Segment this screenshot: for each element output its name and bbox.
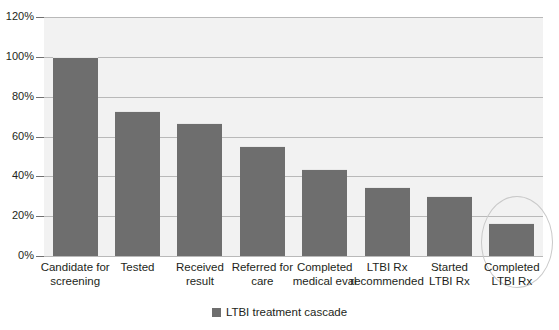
- y-axis-tick-label: 20%: [12, 210, 34, 221]
- bar[interactable]: [177, 123, 222, 256]
- y-axis-tick-label: 80%: [12, 91, 34, 102]
- bar-slot: [44, 17, 106, 256]
- y-axis-tick-label: 0%: [18, 250, 34, 261]
- chart-legend: LTBI treatment cascade: [0, 306, 559, 318]
- bar[interactable]: [240, 146, 285, 256]
- bar[interactable]: [302, 169, 347, 256]
- bar-slot: [106, 17, 168, 256]
- bar[interactable]: [365, 187, 410, 256]
- bar[interactable]: [53, 57, 98, 256]
- bar[interactable]: [115, 111, 160, 256]
- bar-slot: [481, 17, 543, 256]
- bar-slot: [231, 17, 293, 256]
- y-axis-tick-label: 40%: [12, 170, 34, 181]
- x-axis-label-line: screening: [38, 274, 112, 288]
- y-axis-tick: [36, 176, 44, 177]
- bar[interactable]: [489, 223, 534, 256]
- y-axis-tick: [36, 17, 44, 18]
- y-axis-tick-label: 120%: [6, 11, 34, 22]
- y-axis-tick-label: 60%: [12, 131, 34, 142]
- y-axis-tick: [36, 216, 44, 217]
- y-axis-tick: [36, 137, 44, 138]
- bar-slot: [169, 17, 231, 256]
- bar-slot: [294, 17, 356, 256]
- bar-slot: [356, 17, 418, 256]
- y-axis-tick: [36, 57, 44, 58]
- x-axis-label-line: LTBI Rx: [475, 274, 549, 288]
- bar-slot: [418, 17, 480, 256]
- x-axis-category-label: CompletedLTBI Rx: [475, 260, 549, 288]
- gridline: [44, 256, 543, 257]
- y-axis-tick: [36, 256, 44, 257]
- legend-swatch-icon: [212, 308, 221, 317]
- legend-item-label: LTBI treatment cascade: [226, 306, 347, 318]
- bars-layer: [44, 17, 543, 256]
- bar[interactable]: [427, 196, 472, 256]
- x-axis-labels: Candidate forscreeningTestedReceivedresu…: [44, 260, 543, 304]
- ltbi-treatment-cascade-chart: 120%100%80%60%40%20%0% Candidate forscre…: [0, 0, 559, 330]
- x-axis-label-line: Completed: [475, 260, 549, 274]
- y-axis-tick: [36, 97, 44, 98]
- y-axis-tick-label: 100%: [6, 51, 34, 62]
